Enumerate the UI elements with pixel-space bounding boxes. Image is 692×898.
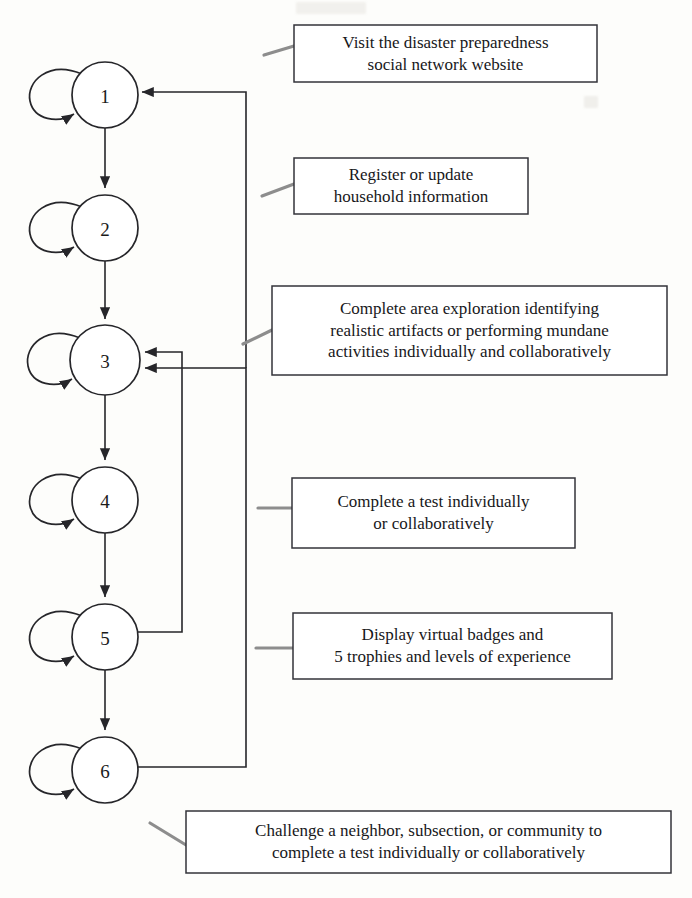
callout-box-5[interactable] xyxy=(293,613,612,679)
edge-6-1 xyxy=(142,92,246,368)
node-5[interactable]: 5 xyxy=(72,604,138,670)
node-3-label: 3 xyxy=(100,351,110,372)
node-5-label: 5 xyxy=(100,628,110,649)
node-4-label: 4 xyxy=(100,491,110,512)
node-3[interactable]: 3 xyxy=(70,325,140,395)
leader-line-1 xyxy=(264,46,294,55)
diagram-svg: 1 2 3 4 5 6 xyxy=(0,0,692,898)
leader-line-3 xyxy=(243,330,272,344)
node-2-label: 2 xyxy=(100,219,110,240)
node-1[interactable]: 1 xyxy=(72,62,138,128)
node-6-label: 6 xyxy=(100,761,110,782)
callout-box-4[interactable] xyxy=(292,478,575,548)
node-4[interactable]: 4 xyxy=(72,467,138,533)
leader-line-6 xyxy=(150,823,186,845)
node-1-label: 1 xyxy=(100,86,110,107)
diagram-canvas: 1 2 3 4 5 6 xyxy=(0,0,692,898)
node-6[interactable]: 6 xyxy=(72,737,138,803)
callout-box-2[interactable] xyxy=(294,158,528,214)
callout-box-1[interactable] xyxy=(294,25,597,82)
callout-box-3[interactable] xyxy=(272,286,667,375)
edge-6-3 xyxy=(136,368,246,767)
leader-line-2 xyxy=(262,184,294,196)
node-2[interactable]: 2 xyxy=(72,195,138,261)
callout-box-6[interactable] xyxy=(186,811,671,873)
edge-5-3 xyxy=(136,352,182,632)
